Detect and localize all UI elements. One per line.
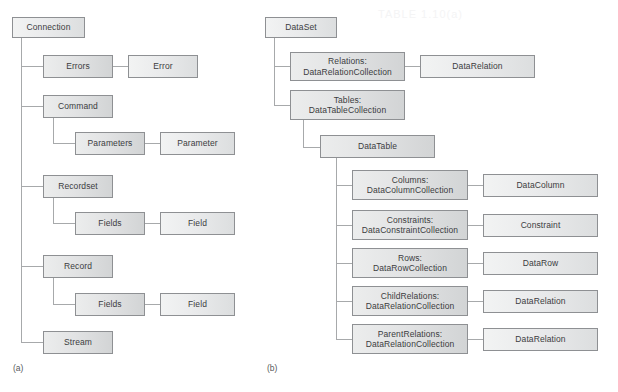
connector-recordset-trunk xyxy=(53,198,54,223)
node-constraint-label: Constraint xyxy=(484,220,597,231)
node-constraint[interactable]: Constraint xyxy=(483,214,598,237)
connector-record-trunk xyxy=(53,278,54,304)
connector-relations-datarelation xyxy=(405,66,420,67)
node-parameters-label: Parameters xyxy=(76,138,144,149)
connector-connection-recordset xyxy=(21,186,43,187)
connector-record-fields-field xyxy=(145,304,160,305)
node-record-field-label: Field xyxy=(161,299,234,310)
connector-datatable-parentrelations xyxy=(336,339,352,340)
connector-datatable-rows xyxy=(336,263,352,264)
connector-parameters-parameter xyxy=(145,143,160,144)
connector-tables-datatable xyxy=(303,147,320,148)
node-connection-label: Connection xyxy=(13,22,84,33)
node-rows-label: Rows: DataRowCollection xyxy=(353,253,467,274)
connector-datatable-columns xyxy=(336,185,352,186)
node-datarow[interactable]: DataRow xyxy=(483,252,598,275)
connector-connection-stream xyxy=(21,342,43,343)
node-relations[interactable]: Relations: DataRelationCollection xyxy=(290,52,405,81)
node-recordset-fields[interactable]: Fields xyxy=(75,212,145,235)
node-datarelation-child[interactable]: DataRelation xyxy=(483,290,598,313)
node-datarelation-child-label: DataRelation xyxy=(484,296,597,307)
node-datatable-label: DataTable xyxy=(321,141,434,152)
connector-connection-trunk xyxy=(21,38,22,342)
node-record-fields[interactable]: Fields xyxy=(75,293,145,316)
connector-errors-error xyxy=(113,66,128,67)
connector-command-trunk xyxy=(53,118,54,143)
node-recordset-field[interactable]: Field xyxy=(160,212,235,235)
node-parameter[interactable]: Parameter xyxy=(160,132,235,155)
connector-dataset-trunk xyxy=(274,38,275,106)
connector-connection-command xyxy=(21,106,43,107)
connector-dataset-tables xyxy=(274,105,290,106)
node-datarow-label: DataRow xyxy=(484,258,597,269)
connector-recordset-fields xyxy=(53,223,75,224)
node-datarelation-parent[interactable]: DataRelation xyxy=(483,328,598,351)
connector-connection-errors xyxy=(21,66,43,67)
node-error-label: Error xyxy=(129,61,197,72)
node-record-label: Record xyxy=(44,261,112,272)
node-error[interactable]: Error xyxy=(128,55,198,78)
node-recordset-field-label: Field xyxy=(161,218,234,229)
node-stream[interactable]: Stream xyxy=(43,331,113,354)
connector-datatable-childrelations xyxy=(336,301,352,302)
node-errors-label: Errors xyxy=(44,61,112,72)
node-datacolumn-label: DataColumn xyxy=(484,180,597,191)
node-command-label: Command xyxy=(44,101,112,112)
node-record[interactable]: Record xyxy=(43,255,113,278)
node-datarelation-parent-label: DataRelation xyxy=(484,334,597,345)
connector-dataset-relations xyxy=(274,66,290,67)
node-parameter-label: Parameter xyxy=(161,138,234,149)
node-datarelation-top[interactable]: DataRelation xyxy=(420,55,535,78)
node-recordset[interactable]: Recordset xyxy=(43,175,113,198)
node-dataset[interactable]: DataSet xyxy=(265,17,337,38)
node-tables-label: Tables: DataTableCollection xyxy=(291,95,404,116)
node-connection[interactable]: Connection xyxy=(12,17,85,38)
object-model-diagram: Connection Errors Error Command Paramete… xyxy=(0,0,618,392)
node-parentrelations[interactable]: ParentRelations: DataRelationCollection xyxy=(352,324,468,354)
node-columns[interactable]: Columns: DataColumnCollection xyxy=(352,170,468,200)
node-constraints[interactable]: Constraints: DataConstraintCollection xyxy=(352,210,468,240)
node-constraints-label: Constraints: DataConstraintCollection xyxy=(353,215,467,236)
node-stream-label: Stream xyxy=(44,337,112,348)
connector-record-fields xyxy=(53,304,75,305)
node-parameters[interactable]: Parameters xyxy=(75,132,145,155)
node-command[interactable]: Command xyxy=(43,95,113,118)
node-datacolumn[interactable]: DataColumn xyxy=(483,174,598,197)
caption-panel-b: (b) xyxy=(267,363,277,373)
connector-datatable-constraints xyxy=(336,225,352,226)
node-datarelation-top-label: DataRelation xyxy=(421,61,534,72)
connector-childrelations-datarelation xyxy=(468,301,483,302)
node-childrelations[interactable]: ChildRelations: DataRelationCollection xyxy=(352,286,468,316)
connector-tables-trunk xyxy=(303,120,304,147)
node-errors[interactable]: Errors xyxy=(43,55,113,78)
node-record-fields-label: Fields xyxy=(76,299,144,310)
connector-rows-datarow xyxy=(468,263,483,264)
node-parentrelations-label: ParentRelations: DataRelationCollection xyxy=(353,329,467,350)
connector-constraints-constraint xyxy=(468,225,483,226)
node-childrelations-label: ChildRelations: DataRelationCollection xyxy=(353,291,467,312)
connector-recordset-fields-field xyxy=(145,223,160,224)
node-record-field[interactable]: Field xyxy=(160,293,235,316)
background-bleed: TABLE 1.10(a) xyxy=(378,8,463,20)
node-datatable[interactable]: DataTable xyxy=(320,135,435,158)
node-dataset-label: DataSet xyxy=(266,22,336,33)
node-relations-label: Relations: DataRelationCollection xyxy=(291,56,404,77)
node-rows[interactable]: Rows: DataRowCollection xyxy=(352,248,468,278)
node-recordset-fields-label: Fields xyxy=(76,218,144,229)
connector-parentrelations-datarelation xyxy=(468,339,483,340)
node-tables[interactable]: Tables: DataTableCollection xyxy=(290,90,405,120)
connector-connection-record xyxy=(21,266,43,267)
caption-panel-a: (a) xyxy=(13,363,23,373)
node-recordset-label: Recordset xyxy=(44,181,112,192)
connector-columns-datacolumn xyxy=(468,185,483,186)
connector-command-parameters xyxy=(53,143,75,144)
node-columns-label: Columns: DataColumnCollection xyxy=(353,175,467,196)
